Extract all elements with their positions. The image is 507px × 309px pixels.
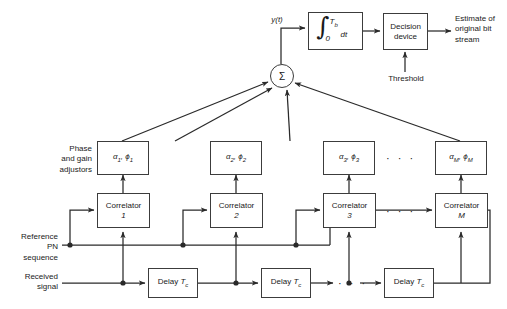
reference-pn-label: Reference PN sequence xyxy=(2,232,58,263)
received-signal-label: Received signal xyxy=(2,272,58,293)
adjustor-block-2: α2, ϕ2 xyxy=(210,141,262,175)
adjustor-label-1: α1, ϕ1 xyxy=(113,152,133,164)
differential-dt: dt xyxy=(341,30,348,40)
sigma-symbol: Σ xyxy=(279,71,285,82)
rake-receiver-diagram: ∫ Tb 0 dt Decision device Estimate of or… xyxy=(0,0,507,309)
estimate-output-label: Estimate of original bit stream xyxy=(455,14,505,45)
correlator-index-1: 1 xyxy=(121,211,125,221)
correlator-name-2: Correlator xyxy=(219,201,255,211)
adjustor-block-3: α3, ϕ3 xyxy=(323,141,375,175)
correlator-name-1: Correlator xyxy=(106,201,142,211)
adjustor-row-ellipsis: · · · xyxy=(386,153,416,164)
junction-dot xyxy=(67,242,72,247)
integral-upper-limit: Tb xyxy=(330,17,338,29)
adjustor-block-m: αM, ϕM xyxy=(435,141,487,175)
delay-block-2: Delay Tc xyxy=(261,268,311,298)
correlator-index-3: 3 xyxy=(347,211,351,221)
correlator-block-1: Correlator 1 xyxy=(97,193,150,228)
adjustor-label-m: αM, ϕM xyxy=(449,152,472,164)
delay-block-3: Delay Tc xyxy=(384,268,434,298)
correlator-index-2: 2 xyxy=(234,211,238,221)
y-signal-label: y(t) xyxy=(262,15,292,25)
correlator-index-m: M xyxy=(458,211,465,221)
delay-row-ellipsis: · · · xyxy=(338,278,368,289)
decision-device-block: Decision device xyxy=(383,13,428,50)
phase-gain-adjustors-label: Phase and gain adjustors xyxy=(40,144,92,175)
adjustor-label-3: α3, ϕ3 xyxy=(339,152,359,164)
correlator-block-3: Correlator 3 xyxy=(323,193,376,228)
adjustor-label-2: α2, ϕ2 xyxy=(226,152,246,164)
delay-label-2: Delay Tc xyxy=(271,277,302,289)
adjustor-block-1: α1, ϕ1 xyxy=(97,141,149,175)
correlator-block-2: Correlator 2 xyxy=(210,193,263,228)
junction-dot xyxy=(293,242,298,247)
correlator-block-m: Correlator M xyxy=(435,193,488,228)
junction-dot xyxy=(120,280,125,285)
correlator-name-3: Correlator xyxy=(332,201,368,211)
junction-dot xyxy=(180,242,185,247)
integrator-block: ∫ Tb 0 dt xyxy=(308,12,363,50)
threshold-label: Threshold xyxy=(383,74,429,84)
decision-device-label: Decision device xyxy=(390,22,421,42)
integral-lower-limit: 0 xyxy=(326,34,330,44)
summation-node: Σ xyxy=(270,64,294,88)
correlator-row-ellipsis: · · · xyxy=(386,206,416,217)
delay-label-1: Delay Tc xyxy=(158,277,189,289)
delay-block-1: Delay Tc xyxy=(148,268,198,298)
junction-dot xyxy=(233,280,238,285)
correlator-name-m: Correlator xyxy=(444,201,480,211)
delay-label-3: Delay Tc xyxy=(394,277,425,289)
